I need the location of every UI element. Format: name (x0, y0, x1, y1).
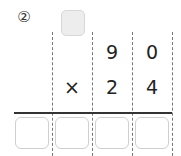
answer-box-thousands[interactable] (15, 117, 49, 149)
column-divider (172, 32, 173, 156)
multiplier-digit-ones: 4 (132, 75, 172, 99)
answer-box-hundreds[interactable] (55, 117, 89, 149)
multiply-operator: × (52, 75, 92, 99)
multiplier-digit-tens: 2 (92, 75, 132, 99)
answer-box-tens[interactable] (95, 117, 129, 149)
problem-number: ② (14, 7, 34, 27)
carry-input-box[interactable] (61, 10, 85, 36)
result-rule (14, 112, 172, 114)
answer-box-ones[interactable] (135, 117, 169, 149)
multiplicand-digit-ones: 0 (132, 40, 172, 64)
multiplicand-digit-tens: 9 (92, 40, 132, 64)
